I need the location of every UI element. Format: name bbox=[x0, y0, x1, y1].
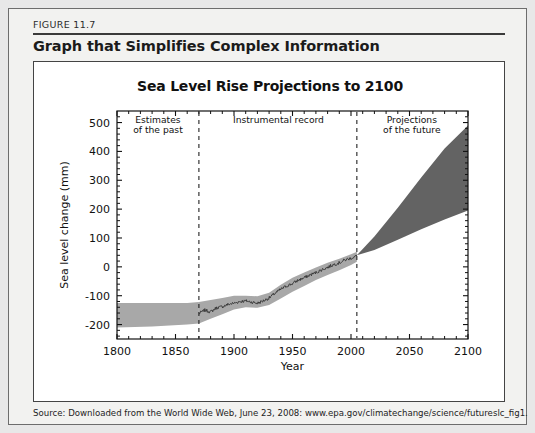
uncertainty-band-area bbox=[117, 302, 199, 327]
x-tick-label: 2050 bbox=[396, 345, 424, 358]
y-tick-label: 100 bbox=[89, 232, 110, 245]
y-tick-label: -100 bbox=[85, 290, 110, 303]
x-tick-label: 1950 bbox=[279, 345, 307, 358]
x-tick-label: 1900 bbox=[220, 345, 248, 358]
figure-number-label: FIGURE 11.7 bbox=[33, 19, 96, 30]
y-tick-label: 200 bbox=[89, 203, 110, 216]
region-annotation-label: Projections bbox=[387, 114, 437, 125]
sea-level-chart: 1800185019001950200020502100-200-1000100… bbox=[34, 62, 506, 403]
region-annotation-label: of the past bbox=[133, 124, 183, 135]
figure-card: FIGURE 11.7 Graph that Simplifies Comple… bbox=[8, 8, 527, 425]
source-caption: Source: Downloaded from the World Wide W… bbox=[33, 408, 528, 418]
projection-cone-area bbox=[357, 125, 468, 255]
x-tick-label: 1800 bbox=[103, 345, 131, 358]
header-divider-rule bbox=[33, 33, 505, 35]
region-annotation-label: of the future bbox=[383, 124, 441, 135]
y-tick-label: 400 bbox=[89, 145, 110, 158]
y-tick-label: 500 bbox=[89, 117, 110, 130]
y-tick-label: -200 bbox=[85, 319, 110, 332]
x-tick-label: 1850 bbox=[162, 345, 190, 358]
figure-caption-title: Graph that Simplifies Complex Informatio… bbox=[33, 38, 380, 54]
x-tick-label: 2000 bbox=[337, 345, 365, 358]
x-axis-title: Year bbox=[280, 360, 305, 373]
y-axis-title: Sea level change (mm) bbox=[58, 161, 71, 289]
x-tick-label: 2100 bbox=[454, 345, 482, 358]
uncertainty-band-area bbox=[199, 252, 357, 324]
chart-panel: Sea Level Rise Projections to 2100 18001… bbox=[33, 61, 505, 402]
region-annotation-label: Estimates bbox=[135, 114, 181, 125]
y-tick-label: 300 bbox=[89, 174, 110, 187]
region-annotation-label: Instrumental record bbox=[233, 114, 324, 125]
y-tick-label: 0 bbox=[103, 261, 110, 274]
